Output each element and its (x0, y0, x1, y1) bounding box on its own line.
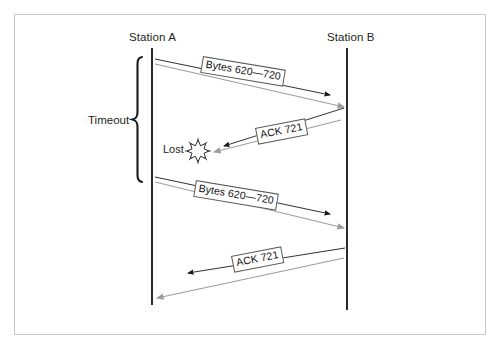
packet-loss-label: Lost (163, 143, 184, 155)
diagram-frame-border (14, 14, 486, 335)
participant-label-station-a: Station A (129, 31, 176, 43)
timeout-annotation-label: Timeout (88, 114, 129, 126)
participant-label-station-b: Station B (327, 31, 375, 43)
diagram-canvas: Station A Station B Bytes 620—720 ACK 72… (0, 0, 501, 352)
